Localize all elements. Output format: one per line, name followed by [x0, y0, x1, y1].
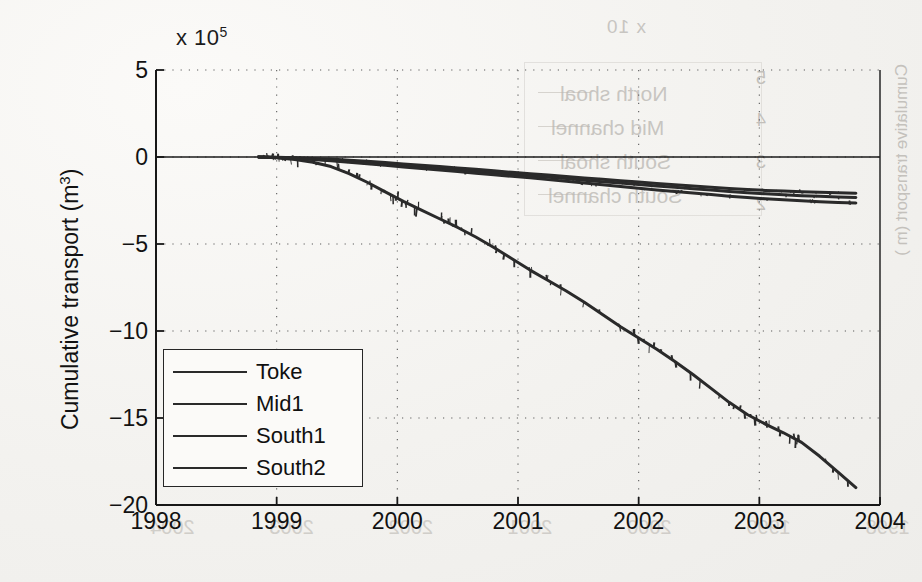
- scan-noise: [798, 435, 799, 440]
- chart-legend: Toke Mid1 South1 South2: [163, 349, 363, 487]
- scan-noise: [838, 197, 839, 199]
- series-line: [259, 157, 856, 203]
- scan-noise: [755, 419, 756, 422]
- scan-noise: [384, 190, 385, 191]
- legend-label-mid1: Mid1: [256, 393, 304, 415]
- scan-noise: [405, 203, 406, 205]
- scan-noise: [654, 342, 655, 347]
- scan-noise: [797, 440, 798, 444]
- legend-item-south2[interactable]: South2: [164, 452, 362, 484]
- scan-noise: [599, 178, 600, 179]
- scan-noise: [672, 355, 673, 360]
- scan-noise: [495, 245, 496, 249]
- scan-noise: [443, 168, 444, 169]
- scan-noise: [573, 180, 574, 182]
- scan-noise: [398, 191, 399, 198]
- scan-noise: [496, 249, 497, 253]
- scan-noise: [648, 183, 649, 184]
- legend-item-south1[interactable]: South1: [164, 420, 362, 452]
- scan-noise: [759, 421, 760, 422]
- scan-noise: [380, 165, 381, 167]
- scan-noise: [586, 181, 587, 183]
- legend-label-south1: South1: [256, 425, 326, 447]
- scan-noise: [766, 425, 767, 428]
- scan-noise: [638, 338, 639, 344]
- scan-noise: [471, 228, 472, 234]
- scan-noise: [756, 415, 757, 420]
- scan-noise: [651, 183, 652, 184]
- scan-noise: [850, 203, 851, 205]
- legend-color-swatch-mid1: [173, 403, 247, 405]
- legend-color-swatch-south2: [173, 467, 247, 469]
- legend-item-toke[interactable]: Toke: [164, 356, 362, 388]
- scan-noise: [681, 190, 682, 192]
- scan-noise: [793, 193, 794, 195]
- series-south2: [259, 155, 856, 205]
- scan-noise: [407, 200, 408, 203]
- scan-noise: [794, 434, 795, 439]
- scan-noise: [684, 188, 685, 189]
- scan-noise: [488, 244, 489, 246]
- scan-noise: [359, 174, 360, 178]
- scan-noise: [838, 472, 839, 480]
- scan-noise: [810, 199, 811, 201]
- scan-noise: [634, 334, 635, 335]
- scan-noise: [396, 198, 397, 201]
- scan-noise: [715, 392, 716, 393]
- legend-color-swatch-toke: [173, 371, 247, 373]
- legend-item-mid1[interactable]: Mid1: [164, 388, 362, 420]
- scan-noise: [366, 160, 367, 162]
- scan-noise: [401, 201, 402, 207]
- scan-noise: [811, 201, 812, 203]
- scan-noise: [676, 192, 677, 194]
- scan-noise: [263, 155, 264, 157]
- scan-noise: [740, 405, 741, 409]
- scan-noise: [839, 201, 840, 202]
- legend-label-south2: South2: [256, 457, 326, 479]
- scan-noise: [779, 193, 780, 194]
- scan-noise: [719, 395, 720, 399]
- scan-noise: [651, 186, 652, 187]
- scan-noise: [675, 362, 676, 368]
- scan-noise: [825, 459, 826, 462]
- scan-noise: [426, 169, 427, 171]
- scan-noise: [744, 189, 745, 190]
- scan-noise: [373, 163, 374, 164]
- scan-noise: [282, 158, 283, 161]
- plot-area: [0, 0, 922, 582]
- scan-noise: [348, 169, 349, 173]
- scan-noise: [620, 326, 621, 331]
- scan-noise: [314, 160, 315, 163]
- scan-noise: [441, 168, 442, 170]
- scan-noise: [614, 322, 615, 323]
- scan-noise: [347, 162, 348, 163]
- scan-noise: [503, 254, 504, 260]
- scan-noise: [769, 193, 770, 194]
- legend-color-swatch-south1: [173, 435, 247, 437]
- scan-noise: [582, 183, 583, 185]
- scan-noise: [712, 190, 713, 191]
- scan-noise: [745, 413, 746, 419]
- scan-noise: [849, 201, 850, 203]
- scan-noise: [799, 190, 800, 192]
- chart-figure: x 10 North shoal Mid channel South shoal…: [0, 0, 922, 582]
- scan-noise: [465, 172, 466, 174]
- legend-label-toke: Toke: [256, 361, 302, 383]
- scan-noise: [749, 189, 750, 190]
- scan-noise: [338, 164, 339, 170]
- scan-noise: [337, 162, 338, 169]
- scan-noise: [518, 172, 519, 173]
- scan-noise: [371, 185, 372, 190]
- scan-noise: [828, 196, 829, 197]
- scan-noise: [855, 197, 856, 198]
- scan-noise: [814, 202, 815, 204]
- scan-noise: [416, 208, 417, 217]
- scan-noise: [767, 199, 768, 201]
- scan-noise: [699, 380, 700, 389]
- scan-noise: [766, 421, 767, 425]
- scan-noise: [546, 275, 547, 280]
- scan-noise: [439, 219, 440, 220]
- scan-noise: [706, 194, 707, 195]
- scan-noise: [461, 228, 462, 230]
- scan-noise: [342, 158, 343, 160]
